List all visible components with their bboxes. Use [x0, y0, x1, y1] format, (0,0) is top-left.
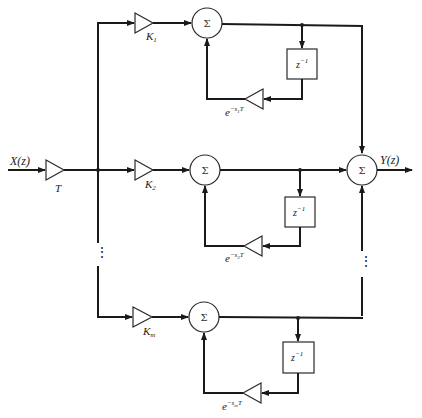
output-label: Y(z) [380, 153, 399, 167]
branch-1-feedback-wire [207, 39, 245, 99]
branch-2: K2 Σ z−1 e−s2T [98, 155, 346, 264]
branch-m-gain-label: Km [142, 325, 155, 339]
branch-2-feedback-wire [205, 186, 244, 246]
branch-m-feedback-gain-triangle [243, 383, 261, 403]
input-section: X(z) T [8, 154, 100, 194]
branch-1-feedback-label: e−s1T [225, 105, 245, 118]
bus-ellipsis: ⋮ [95, 245, 109, 260]
branch-m-feedback-label: e−smT [222, 399, 243, 412]
branch-1-feedback-gain-triangle [245, 89, 263, 109]
branch-1-summer-symbol: Σ [203, 18, 210, 29]
branch-2-gain-label: K2 [144, 178, 156, 192]
input-gain-triangle [46, 160, 64, 180]
branch-m: Km Σ z−1 e−smT [97, 302, 363, 412]
branch-2-delay-out-wire [263, 227, 300, 246]
branch-m-delay-out-wire [262, 373, 298, 393]
branch-2-feedback-gain-triangle [244, 236, 262, 256]
input-label: X(z) [9, 154, 30, 168]
branch-2-gain-triangle [135, 160, 153, 180]
output-collector: Σ Y(z) ⋮ [347, 26, 412, 316]
branch-2-feedback-label: e−s2T [225, 251, 245, 264]
branch-m-feedback-wire [204, 333, 243, 393]
input-gain-label: T [55, 182, 62, 194]
branch-1-gain-label: K1 [145, 30, 157, 44]
branch-1-delay-out-wire [264, 79, 302, 99]
block-diagram: X(z) T ⋮ K1 Σ z−1 e−s1T Σ Y(z) [0, 0, 422, 418]
branch-1: K1 Σ z−1 e−s1T [97, 8, 363, 118]
output-summer-symbol: Σ [358, 165, 365, 176]
branch-m-output-wire [219, 317, 363, 318]
branch-m-gain-triangle [133, 307, 152, 327]
branch-1-output-wire [222, 24, 363, 26]
branch-m-summer-symbol: Σ [200, 312, 207, 323]
branch-2-summer-symbol: Σ [201, 165, 208, 176]
collector-ellipsis: ⋮ [359, 254, 373, 269]
